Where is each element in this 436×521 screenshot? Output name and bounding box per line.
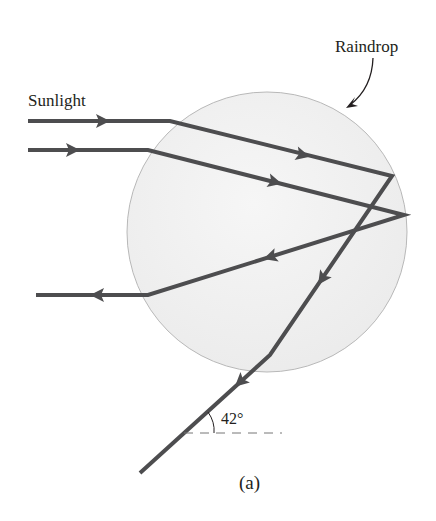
rainbow-raindrop-diagram: Sunlight Raindrop 42° (a) [0, 0, 436, 521]
angle-arc [208, 412, 214, 433]
sunlight-label: Sunlight [28, 91, 86, 110]
raindrop-pointer [350, 58, 373, 105]
raindrop-circle [127, 92, 407, 372]
figure-caption: (a) [239, 472, 260, 494]
raindrop-label: Raindrop [335, 37, 398, 56]
angle-label: 42° [221, 410, 243, 427]
